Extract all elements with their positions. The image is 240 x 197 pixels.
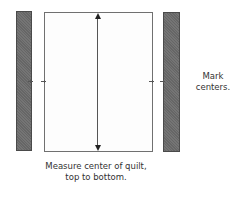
arrow-down-icon	[95, 145, 101, 151]
measure-caption: Measure center of quilt, top to bottom.	[28, 161, 164, 183]
center-mark-quilt-right-notch	[152, 80, 153, 83]
quilt-top	[44, 12, 153, 152]
right-border-strip	[163, 12, 180, 152]
measure-caption-line1: Measure center of quilt,	[28, 161, 164, 172]
arrow-up-icon	[95, 13, 101, 19]
mark-label-line1: Mark	[186, 71, 240, 82]
center-mark-quilt-left-notch	[44, 80, 45, 83]
measure-caption-line2: top to bottom.	[28, 172, 164, 183]
mark-centers-label: Mark centers.	[186, 71, 240, 93]
mark-label-line2: centers.	[186, 82, 240, 93]
center-mark-left-strip-notch	[30, 80, 31, 83]
center-mark-right-strip-notch	[163, 80, 164, 83]
measure-arrow-line	[97, 17, 98, 146]
